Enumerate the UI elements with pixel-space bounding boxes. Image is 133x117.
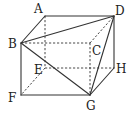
vertex-label-c: C — [92, 44, 101, 58]
cuboid-diagram: A B C D E F G H — [0, 0, 133, 117]
vertex-label-g: G — [86, 99, 96, 113]
vertex-label-b: B — [8, 37, 17, 51]
vertex-label-f: F — [8, 91, 16, 105]
edge-bg — [21, 43, 90, 95]
labels-group: A B C D E F G H — [8, 2, 126, 113]
vertex-label-h: H — [116, 62, 126, 76]
edge-bd — [21, 16, 114, 43]
vertex-label-d: D — [115, 4, 125, 18]
vertex-label-e: E — [34, 63, 43, 77]
vertex-label-a: A — [33, 2, 43, 16]
